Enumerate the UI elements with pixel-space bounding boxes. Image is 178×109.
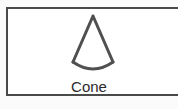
cone-icon (60, 10, 120, 76)
shape-label: Cone (0, 78, 178, 95)
